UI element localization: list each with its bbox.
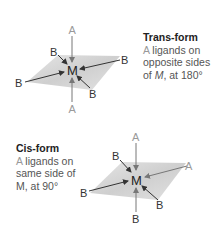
trans-caption: Trans-form A ligands on opposite sides o…	[143, 31, 210, 81]
trans-label-b-right: B	[121, 54, 128, 66]
cis-desc-line2: same side of	[16, 167, 76, 179]
trans-metal-label: M	[67, 63, 78, 78]
cis-desc-line3: M, at 90°	[16, 180, 58, 192]
trans-label-b-left: B	[15, 77, 22, 89]
trans-title: Trans-form	[143, 31, 210, 44]
cis-label-b-left: B	[80, 187, 87, 199]
trans-label-a-top: A	[69, 24, 77, 36]
cis-label-b-upper-left: B	[112, 150, 119, 162]
cis-title: Cis-form	[16, 142, 76, 155]
cis-metal-label: M	[131, 173, 142, 188]
cis-diagram: M A A B B B B	[80, 131, 193, 225]
trans-diagram: M A A B B B B	[15, 24, 128, 115]
cis-desc-line1: ligands on	[22, 155, 73, 167]
trans-desc-line3-post: , at 180°	[163, 69, 202, 81]
cis-label-a-top: A	[132, 131, 140, 143]
cis-label-b-bottom: B	[132, 213, 139, 225]
trans-desc-line1: ligands on	[149, 44, 200, 56]
trans-label-a-bottom: A	[69, 103, 77, 115]
trans-label-b-upper-left: B	[50, 46, 57, 58]
cis-label-b-lower-right: B	[156, 199, 163, 211]
trans-label-b-lower-right: B	[89, 88, 96, 100]
trans-desc-line3-pre: of	[143, 69, 155, 81]
cis-label-a-right: A	[185, 160, 193, 172]
trans-desc-line2: opposite sides	[143, 56, 210, 68]
cis-caption: Cis-form A ligands on same side of M, at…	[16, 142, 76, 192]
